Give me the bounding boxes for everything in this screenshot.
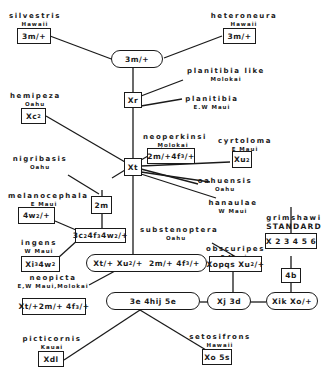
karyotype-box-setosifrons: Xo 5s: [202, 349, 232, 365]
node-3c4f4w: 3c24f34w2/+: [75, 228, 126, 243]
species-label-substenoptera: substenoptera Oahu: [140, 227, 212, 242]
species-label-hanaulae: hanaulae W Maui: [207, 200, 259, 215]
karyotype-box-neopicta: Xt/+2m/+ 4f3/+: [22, 298, 86, 315]
karyotype-box-ingens: Xi3 4w2: [21, 256, 60, 272]
species-label-planitibia-like: planitibia like Molokai: [186, 68, 266, 83]
karyotype-box-obscuripes: Xopqs Xu2/+: [209, 256, 262, 272]
karyotype-box-heteroneura: 3m/+: [223, 28, 256, 44]
species-label-oahuensis: oahuensis Oahu: [197, 178, 253, 193]
node-xt-xu-2m-4f: Xt/+ Xu2/+ 2m/+ 4f3/+: [86, 254, 207, 272]
node-xik-xo: Xik Xo/+: [266, 292, 318, 310]
species-label-heteroneura: heteroneura Hawaii: [208, 13, 280, 28]
node-3e-4hij-5e: 3e 4hij 5e: [106, 292, 200, 310]
karyotype-box-neoperkinsi: 2m/+4f3/+: [147, 148, 195, 164]
node-2m: 2m: [91, 196, 112, 214]
species-label-neoperkinsi: neoperkinsi Molokai: [143, 134, 203, 149]
species-label-picticornis: picticornis Kauai: [22, 336, 82, 351]
species-label-nigribasis: nigribasis Oahu: [12, 156, 68, 171]
species-label-grimshawi: grimshawi STANDARD: [265, 215, 323, 231]
species-label-hemipeza: hemipeza Oahu: [10, 93, 60, 108]
karyotype-box-melanocephala: 4w2/+: [18, 207, 55, 224]
karyotype-box-silvestris: 3m/+: [17, 28, 51, 44]
karyotype-box-cyrtoloma: Xu2: [232, 151, 252, 168]
ancestral-node-root: 3m/+: [111, 50, 163, 68]
species-label-setosifrons: setosifrons Hawaii: [188, 334, 252, 349]
karyotype-box-picticornis: Xdl: [38, 351, 64, 367]
node-xr: Xr: [124, 92, 142, 108]
species-label-silvestris: silvestris Hawaii: [8, 13, 62, 28]
species-label-neopicta: neopicta E,W Maui,Molokai: [13, 275, 93, 290]
node-xj-3d: Xj 3d: [207, 292, 251, 310]
species-label-ingens: ingens W Maui: [19, 240, 59, 255]
species-label-planitibia: planitibia E.W Maui: [184, 96, 240, 111]
node-xt: Xt: [124, 158, 142, 176]
node-4b: 4b: [281, 268, 301, 283]
karyotype-box-grimshawi: X 2 3 4 5 6: [265, 233, 317, 249]
connector-lines: [0, 0, 328, 375]
species-label-melanocephala: melanocephala E Maui: [8, 193, 80, 208]
karyotype-box-hemipeza: Xc2: [21, 108, 46, 124]
